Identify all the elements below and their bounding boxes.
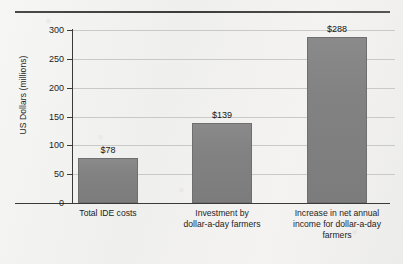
category-label-line: farmers <box>285 230 389 241</box>
category-label-line: dollar-a-day farmers <box>170 219 274 230</box>
top-horizontal-rule <box>15 11 390 13</box>
bar-total-ide-costs[interactable] <box>78 158 138 203</box>
category-label-line: Investment by <box>170 208 274 219</box>
bar-value-label-1: $139 <box>192 110 252 120</box>
bar-value-label-0: $78 <box>78 145 138 155</box>
category-label-investment-by-farmers: Investment by dollar-a-day farmers <box>170 208 274 230</box>
category-label-line: Total IDE costs <box>56 208 160 219</box>
category-label-increase-net-annual-income: Increase in net annual income for dollar… <box>285 208 389 241</box>
category-label-line: income for dollar-a-day <box>285 219 389 230</box>
category-label-line: Increase in net annual <box>285 208 389 219</box>
bar-increase-net-annual-income[interactable] <box>307 37 367 203</box>
category-label-total-ide-costs: Total IDE costs <box>56 208 160 219</box>
bar-investment-by-farmers[interactable] <box>192 123 252 203</box>
bar-value-label-2: $288 <box>307 24 367 34</box>
tick-mark-0 <box>67 203 72 204</box>
bar-chart-figure: US Dollars (millions) 300 250 200 150 10… <box>0 0 403 264</box>
